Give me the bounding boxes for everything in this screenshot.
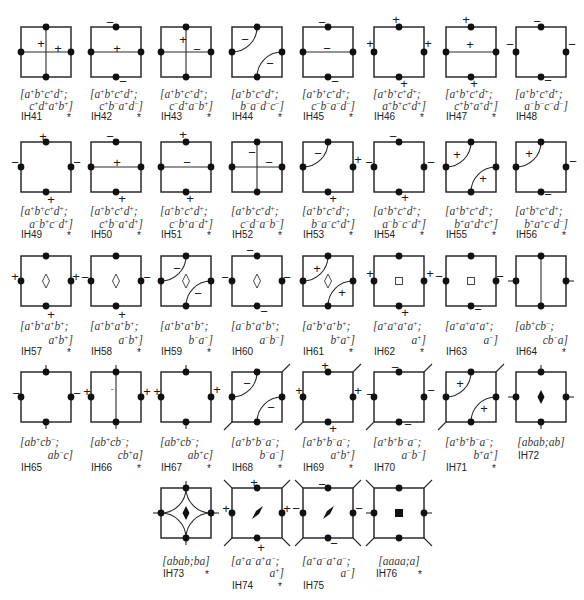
star-mark: * bbox=[420, 347, 424, 358]
word-label-line2: b+a+] bbox=[331, 333, 355, 346]
node-dot-right bbox=[350, 49, 357, 56]
plus-sign: + bbox=[83, 384, 91, 399]
tile-id: IH52 bbox=[232, 229, 254, 240]
star-mark: * bbox=[418, 569, 422, 580]
star-mark: * bbox=[562, 230, 566, 241]
minus-sign: − bbox=[318, 15, 326, 30]
node-dot-bottom bbox=[325, 303, 332, 310]
star-mark: * bbox=[278, 463, 282, 474]
node-dot-left bbox=[513, 278, 520, 285]
minus-sign: − bbox=[106, 15, 114, 30]
minus-sign: − bbox=[193, 42, 201, 57]
minus-sign: − bbox=[404, 417, 412, 432]
star-mark: * bbox=[278, 112, 282, 123]
tile-id: IH48 bbox=[516, 111, 538, 122]
plus-sign: + bbox=[250, 475, 258, 490]
star-mark: * bbox=[349, 347, 353, 358]
node-dot-right bbox=[350, 278, 357, 285]
minus-sign: − bbox=[194, 286, 202, 301]
minus-sign: − bbox=[265, 155, 273, 170]
minus-sign: − bbox=[365, 155, 373, 170]
minus-sign: − bbox=[143, 270, 151, 285]
plus-sign: + bbox=[54, 41, 62, 56]
tile-id: IH58 bbox=[91, 346, 113, 357]
star-mark: * bbox=[349, 112, 353, 123]
tile-id: IH43 bbox=[161, 111, 183, 122]
star-mark: * bbox=[420, 112, 424, 123]
figure-page: ++[a+b+c+d+;c+d+a+b+]IH41*−+−[a+b+c+d+;c… bbox=[0, 0, 584, 600]
minus-sign: − bbox=[266, 56, 274, 71]
minus-sign: − bbox=[474, 302, 482, 317]
plus-sign: + bbox=[525, 146, 533, 161]
plus-sign: + bbox=[39, 129, 47, 144]
star-mark: * bbox=[492, 463, 496, 474]
plus-sign: + bbox=[283, 501, 291, 516]
tile-id: IH49 bbox=[21, 229, 43, 240]
tile-id: IH64 bbox=[516, 346, 538, 357]
star-mark: * bbox=[562, 347, 566, 358]
star-mark: * bbox=[349, 230, 353, 241]
node-dot-right bbox=[563, 394, 570, 401]
star-mark: * bbox=[67, 347, 71, 358]
word-label-line2: a+b+] bbox=[49, 333, 73, 346]
plus-sign: + bbox=[354, 152, 362, 167]
tile-id: IH75 bbox=[303, 580, 325, 591]
minus-sign: − bbox=[355, 501, 363, 516]
node-dot-top bbox=[43, 369, 50, 376]
tile-id: IH56 bbox=[516, 229, 538, 240]
node-dot-top bbox=[113, 369, 120, 376]
tile-id: IH73 bbox=[163, 568, 185, 579]
word-label-line2: b+a+] bbox=[474, 448, 498, 461]
plus-sign: + bbox=[453, 147, 461, 162]
plus-sign: + bbox=[295, 383, 303, 398]
minus-sign: − bbox=[246, 243, 254, 258]
plus-sign: + bbox=[354, 383, 362, 398]
word-label-line2: b−a−] bbox=[260, 448, 284, 461]
node-dot-bottom bbox=[538, 303, 545, 310]
node-dot-left bbox=[158, 164, 165, 171]
node-dot-right bbox=[279, 394, 286, 401]
tile-id: IH45 bbox=[303, 111, 325, 122]
node-dot-top bbox=[183, 485, 190, 492]
plus-sign: + bbox=[329, 421, 337, 436]
plus-sign: + bbox=[366, 266, 374, 281]
star-mark: * bbox=[492, 112, 496, 123]
node-dot-bottom bbox=[183, 535, 190, 542]
plus-sign: + bbox=[143, 384, 151, 399]
star-mark: * bbox=[492, 230, 496, 241]
node-dot-top bbox=[325, 139, 332, 146]
node-dot-top bbox=[43, 24, 50, 31]
node-dot-top bbox=[254, 369, 261, 376]
node-dot-bottom bbox=[183, 74, 190, 81]
star-mark: * bbox=[278, 230, 282, 241]
node-dot-top bbox=[113, 253, 120, 260]
plus-sign: + bbox=[72, 269, 80, 284]
node-dot-top bbox=[538, 253, 545, 260]
node-dot-left bbox=[443, 49, 450, 56]
tile-id: IH67 bbox=[161, 462, 183, 473]
node-dot-left bbox=[158, 510, 165, 517]
minus-sign: − bbox=[173, 261, 181, 276]
node-dot-right bbox=[493, 164, 500, 171]
star-mark: * bbox=[205, 569, 209, 580]
word-label-line1: [abab;ab] bbox=[517, 436, 564, 448]
minus-sign: − bbox=[248, 145, 256, 160]
star-mark: * bbox=[67, 230, 71, 241]
node-dot-bottom bbox=[254, 189, 261, 196]
minus-sign: − bbox=[496, 269, 504, 284]
star-mark: * bbox=[137, 230, 141, 241]
node-dot-right bbox=[493, 49, 500, 56]
node-dot-right bbox=[138, 49, 145, 56]
node-dot-bottom bbox=[396, 419, 403, 426]
node-dot-top bbox=[468, 139, 475, 146]
node-dot-left bbox=[371, 510, 378, 517]
figure-canvas: ++[a+b+c+d+;c+d+a+b+]IH41*−+−[a+b+c+d+;c… bbox=[0, 0, 584, 600]
node-dot-left bbox=[158, 49, 165, 56]
tile-id: IH57 bbox=[21, 346, 43, 357]
minus-sign: − bbox=[533, 14, 541, 29]
node-dot-right bbox=[68, 49, 75, 56]
minus-sign: − bbox=[283, 270, 291, 285]
plus-sign: + bbox=[222, 501, 230, 516]
node-dot-top bbox=[538, 139, 545, 146]
node-dot-right bbox=[279, 49, 286, 56]
